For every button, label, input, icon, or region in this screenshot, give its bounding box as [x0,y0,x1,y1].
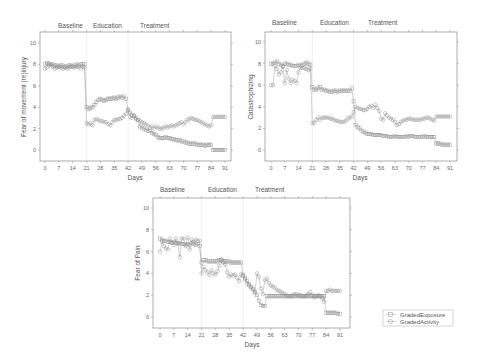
x-tick-label: 70 [180,165,186,171]
y-tick-label: 0 [146,314,149,320]
x-axis-label: Days [353,174,369,182]
x-tick-label: 63 [282,332,288,338]
series-line-gradedexposure [45,63,225,150]
x-tick-label: 21 [83,165,89,171]
x-tick-label: 35 [226,332,232,338]
x-tick-label: 42 [125,165,131,171]
x-tick-label: 42 [240,332,246,338]
x-tick-label: 14 [185,332,191,338]
phase-label-education: Education [93,22,122,29]
phase-label-treatment: Treatment [140,22,170,29]
panel-fear-of-pain: 071421283542495663707784910246810 Baseli… [134,186,352,349]
panel-catastrophizing: 071421283542495663707784910246810 Baseli… [247,19,459,182]
x-tick-label: 91 [447,165,453,171]
data-markers [43,32,227,161]
y-tick-label: 2 [146,292,149,298]
panel-fear-of-movement: 071421283542495663707784910246810 Baseli… [20,22,233,182]
legend-label-graded-activity: GradedActivity [400,319,439,325]
axes: 071421283542495663707784910246810 [143,196,352,338]
x-tick-label: 0 [269,165,272,171]
x-tick-label: 28 [212,332,218,338]
x-tick-label: 7 [57,165,60,171]
data-markers [269,32,452,161]
x-tick-label: 91 [222,165,228,171]
plot-frame [40,32,231,161]
data-markers [158,198,342,328]
y-axis-label: Catastrophizing [247,74,255,120]
y-tick-label: 10 [255,39,261,45]
series-line-gradedactivity [45,63,225,128]
phase-label-baseline: Baseline [58,22,83,29]
series-line-gradedexposure [160,239,340,314]
y-tick-label: 8 [33,61,36,67]
x-tick-label: 35 [337,165,343,171]
y-tick-label: 2 [258,125,261,131]
y-tick-label: 2 [33,126,36,132]
y-axis-label: Fear of movement (re)injury [20,56,28,137]
plot-frame [265,32,457,161]
x-tick-label: 70 [406,165,412,171]
y-tick-label: 4 [146,270,149,276]
y-tick-label: 6 [258,82,261,88]
x-tick-label: 56 [268,332,274,338]
phase-label-education: Education [320,19,349,26]
y-tick-label: 4 [258,104,261,110]
x-tick-label: 14 [295,165,301,171]
x-tick-label: 77 [194,165,200,171]
x-tick-label: 0 [158,332,161,338]
x-tick-label: 14 [70,165,76,171]
y-tick-label: 10 [143,205,149,211]
y-tick-label: 8 [146,227,149,233]
phase-label-treatment: Treatment [368,19,398,26]
x-tick-label: 56 [153,165,159,171]
x-tick-label: 56 [378,165,384,171]
axes: 071421283542495663707784910246810 [30,30,233,171]
x-tick-label: 84 [433,165,439,171]
x-tick-label: 28 [323,165,329,171]
phase-label-education: Education [208,186,237,193]
x-tick-label: 77 [419,165,425,171]
x-axis-label: Days [245,341,261,349]
x-tick-label: 7 [172,332,175,338]
y-tick-label: 6 [146,249,149,255]
x-tick-label: 42 [351,165,357,171]
x-tick-label: 21 [198,332,204,338]
x-tick-label: 84 [323,332,329,338]
y-tick-label: 0 [258,147,261,153]
x-tick-label: 49 [254,332,260,338]
square-marker-icon [158,237,161,240]
legend: GradedExposure GradedActivity [383,310,453,326]
phase-label-treatment: Treatment [255,186,285,193]
x-tick-label: 35 [111,165,117,171]
phase-label-baseline: Baseline [272,19,297,26]
x-tick-label: 49 [364,165,370,171]
x-tick-label: 21 [309,165,315,171]
x-tick-label: 0 [43,165,46,171]
y-axis-label: Fear of Pain [134,245,141,281]
x-axis-label: Days [128,174,144,182]
x-tick-label: 84 [208,165,214,171]
figure-canvas: 071421283542495663707784910246810 Baseli… [0,0,480,359]
x-tick-label: 77 [309,332,315,338]
y-tick-label: 0 [33,147,36,153]
y-tick-label: 6 [33,83,36,89]
y-tick-label: 8 [258,61,261,67]
x-tick-label: 28 [97,165,103,171]
plot-frame [153,198,350,328]
y-tick-label: 4 [33,104,36,110]
x-tick-label: 91 [337,332,343,338]
x-tick-label: 63 [392,165,398,171]
axes: 071421283542495663707784910246810 [255,30,459,171]
legend-label-graded-exposure: GradedExposure [400,312,446,318]
phase-label-baseline: Baseline [160,186,185,193]
x-tick-label: 7 [283,165,286,171]
x-tick-label: 49 [139,165,145,171]
series-line-gradedactivity [271,66,450,125]
y-tick-label: 10 [30,40,36,46]
x-tick-label: 70 [295,332,301,338]
x-tick-label: 63 [167,165,173,171]
